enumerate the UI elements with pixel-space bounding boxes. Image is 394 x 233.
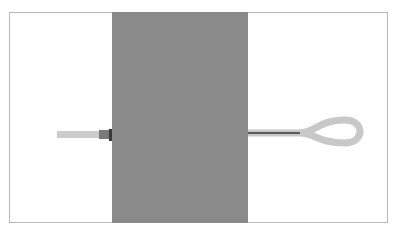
left-cable [57,129,112,141]
cable-illustration [0,0,394,233]
right-cable-loop [248,120,360,143]
connector [99,130,110,139]
